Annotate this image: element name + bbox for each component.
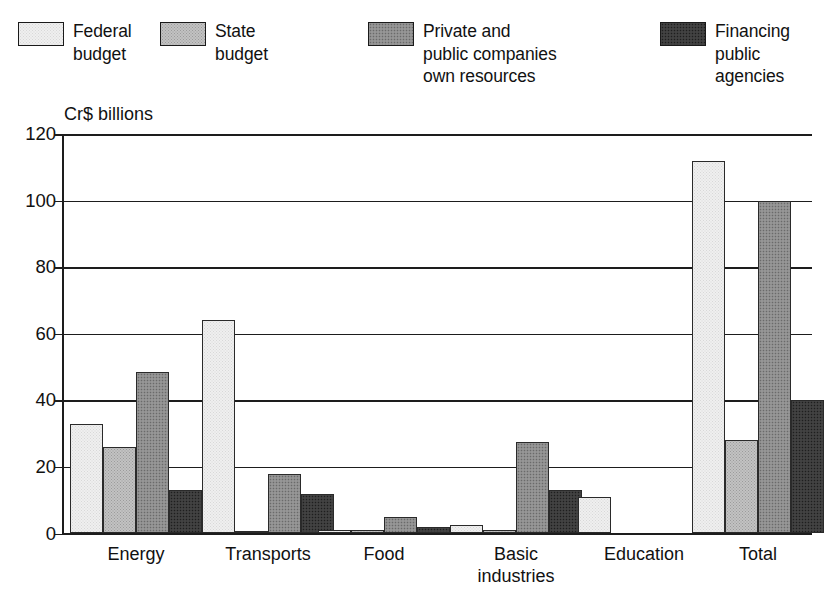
bar bbox=[301, 494, 334, 534]
bar bbox=[136, 372, 169, 533]
bar bbox=[450, 525, 483, 533]
y-tick-label-60: 60 bbox=[12, 323, 56, 345]
y-tick-label-100: 100 bbox=[12, 190, 56, 212]
y-tick-label-20: 20 bbox=[12, 456, 56, 478]
y-tick-mark-80 bbox=[54, 267, 62, 269]
bar bbox=[578, 497, 611, 534]
y-tick-mark-0 bbox=[54, 534, 62, 536]
bar bbox=[70, 424, 103, 534]
bar bbox=[516, 442, 549, 534]
y-tick-mark-100 bbox=[54, 201, 62, 203]
bar bbox=[758, 201, 791, 534]
bar bbox=[235, 531, 268, 533]
bar bbox=[692, 161, 725, 534]
bar bbox=[351, 530, 384, 533]
y-tick-mark-40 bbox=[54, 400, 62, 402]
bar bbox=[268, 474, 301, 534]
bar bbox=[417, 527, 450, 534]
bar bbox=[384, 517, 417, 534]
y-tick-mark-60 bbox=[54, 334, 62, 336]
y-tick-mark-120 bbox=[54, 134, 62, 136]
bar bbox=[791, 400, 824, 533]
x-category-label-5: Total bbox=[678, 543, 828, 565]
y-axis-line bbox=[62, 134, 64, 534]
bar bbox=[725, 440, 758, 533]
bar bbox=[318, 530, 351, 533]
y-axis-tick-labels: 020406080100120 bbox=[12, 0, 56, 600]
bar bbox=[103, 447, 136, 534]
bar bbox=[202, 320, 235, 533]
y-tick-mark-20 bbox=[54, 467, 62, 469]
gridline-120 bbox=[62, 134, 812, 136]
y-tick-label-80: 80 bbox=[12, 256, 56, 278]
y-tick-label-120: 120 bbox=[12, 123, 56, 145]
y-axis-unit-label: Cr$ billions bbox=[64, 104, 153, 125]
y-tick-label-40: 40 bbox=[12, 389, 56, 411]
y-tick-label-0: 0 bbox=[12, 523, 56, 545]
bar bbox=[169, 490, 202, 533]
bar bbox=[483, 530, 516, 533]
